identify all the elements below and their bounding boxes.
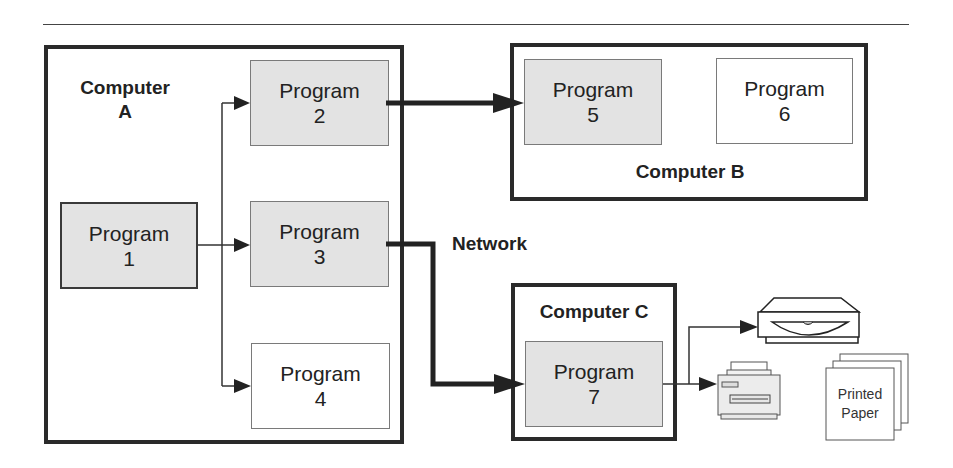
printed-paper-label: Printed Paper: [826, 385, 894, 423]
printer-icon: [718, 362, 780, 419]
network-arrow-2-to-5: [386, 93, 524, 113]
local-arrows-a: [198, 103, 222, 386]
printed-paper-line1: Printed: [826, 385, 894, 404]
scanner-icon: [758, 298, 859, 343]
connectors: [0, 0, 953, 468]
network-arrow-3-to-7: [386, 244, 525, 394]
arrowheads-a: [222, 96, 251, 393]
printed-paper-line2: Paper: [826, 404, 894, 423]
